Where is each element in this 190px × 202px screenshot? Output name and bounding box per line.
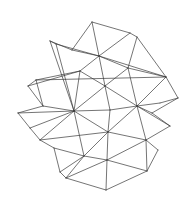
edge-H-V bbox=[36, 80, 43, 106]
edge-e-S bbox=[66, 156, 84, 178]
edge-F-f bbox=[99, 56, 128, 68]
edge-H-G bbox=[36, 77, 166, 80]
edge-C-F bbox=[56, 44, 99, 56]
edge-K-M bbox=[74, 110, 110, 111]
edge-f-N bbox=[128, 68, 137, 106]
edge-V-K bbox=[43, 106, 74, 111]
edge-F-G bbox=[99, 56, 166, 77]
edge-A-h bbox=[72, 22, 92, 50]
edge-R-T bbox=[106, 171, 147, 190]
edge-U-K bbox=[74, 71, 80, 111]
edge-a-T bbox=[146, 140, 147, 171]
edge-G-N bbox=[137, 77, 166, 106]
edge-K-L bbox=[74, 86, 105, 111]
edge-K-P bbox=[74, 111, 108, 132]
edge-U-H bbox=[36, 71, 80, 80]
edge-D-F bbox=[99, 33, 130, 56]
edge-S-Q bbox=[66, 160, 107, 178]
edge-F-U bbox=[80, 56, 99, 71]
edge-W-c bbox=[40, 140, 54, 148]
edge-X-K bbox=[30, 111, 74, 128]
edge-e-Q bbox=[84, 156, 107, 160]
edge-W-P bbox=[40, 132, 108, 140]
edge-K-e bbox=[74, 111, 84, 156]
polyhedron-drawing bbox=[0, 0, 190, 202]
edge-S-R bbox=[66, 178, 106, 190]
edge-E-f bbox=[128, 37, 137, 68]
edge-L-f bbox=[105, 68, 128, 86]
edge-O-g bbox=[152, 98, 178, 113]
edge-c-d bbox=[54, 148, 60, 172]
edge-I-U bbox=[28, 71, 80, 86]
edge-L-N bbox=[105, 86, 137, 106]
edge-W-K bbox=[40, 111, 74, 140]
edge-X-W bbox=[30, 128, 40, 140]
edge-N-Y bbox=[137, 106, 170, 126]
edge-P-a bbox=[108, 132, 146, 140]
edge-d-S bbox=[60, 172, 66, 178]
edge-A-F bbox=[92, 22, 99, 56]
edge-O-Z bbox=[160, 98, 178, 103]
edge-e-P bbox=[84, 132, 108, 156]
edge-L-M bbox=[105, 86, 110, 110]
edge-P-Q bbox=[107, 132, 108, 160]
edge-M-P bbox=[108, 110, 110, 132]
edge-Q-T bbox=[107, 160, 147, 171]
edge-G-O bbox=[166, 77, 178, 98]
edge-Z-N bbox=[137, 103, 160, 106]
edge-Q-R bbox=[106, 160, 107, 190]
edge-a-N bbox=[137, 106, 146, 140]
edge-J-K bbox=[18, 111, 74, 113]
edge-Y-a bbox=[146, 126, 170, 140]
edge-I-V bbox=[28, 86, 43, 106]
edge-a-b bbox=[146, 140, 158, 150]
edge-d-e bbox=[60, 156, 84, 172]
edge-J-X bbox=[18, 113, 30, 128]
edge-D-E bbox=[130, 33, 137, 37]
edge-F-L bbox=[99, 56, 105, 86]
edge-a-Q bbox=[107, 140, 146, 160]
edge-c-e bbox=[54, 148, 84, 156]
edge-b-T bbox=[147, 150, 158, 171]
edge-A-D bbox=[92, 22, 130, 33]
